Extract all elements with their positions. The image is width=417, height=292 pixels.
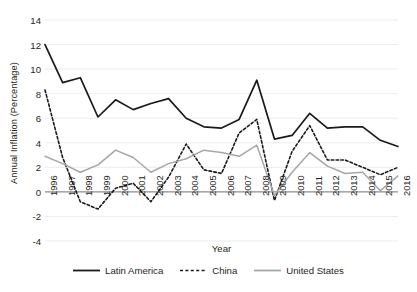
- series-line-latin-america: [45, 45, 398, 147]
- solid-gray-line-swatch: [254, 266, 281, 275]
- x-tick-label: 2004: [190, 175, 200, 196]
- x-tick-label: 2000: [120, 175, 130, 196]
- y-axis-tick-labels: 14121086420-2-4: [0, 20, 41, 241]
- x-tick-label: 2011: [314, 176, 324, 196]
- x-tick-label: 2014: [367, 175, 377, 196]
- x-axis-tick-labels: 1996199719981999200020012002200320042005…: [45, 194, 398, 244]
- x-tick-label: 2003: [173, 175, 183, 196]
- series-line-united-states: [45, 145, 398, 195]
- y-tick-label: -2: [1, 211, 41, 222]
- solid-black-line-swatch: [73, 266, 100, 275]
- chart-figure: Annual Inflation (Percentage) 1412108642…: [0, 0, 417, 292]
- x-tick-label: 2013: [349, 175, 359, 196]
- x-tick-label: 2010: [296, 175, 306, 196]
- chart-legend: Latin AmericaChinaUnited States: [0, 265, 417, 276]
- legend-item[interactable]: United States: [254, 265, 344, 276]
- y-tick-label: 14: [1, 15, 41, 26]
- x-tick-label: 2002: [155, 175, 165, 196]
- y-tick-label: 2: [1, 162, 41, 173]
- legend-item[interactable]: Latin America: [73, 265, 163, 276]
- x-tick-label: 1999: [102, 175, 112, 196]
- y-tick-label: -4: [1, 236, 41, 247]
- y-tick-label: 8: [1, 88, 41, 99]
- y-tick-label: 0: [1, 186, 41, 197]
- x-axis-title: Year: [45, 243, 398, 254]
- series-line-china: [45, 90, 398, 209]
- x-tick-label: 1998: [84, 175, 94, 196]
- y-tick-label: 4: [1, 137, 41, 148]
- x-tick-label: 2007: [243, 175, 253, 196]
- legend-item[interactable]: China: [180, 265, 237, 276]
- x-tick-label: 2008: [261, 175, 271, 196]
- y-tick-label: 10: [1, 64, 41, 75]
- y-tick-label: 12: [1, 39, 41, 50]
- x-tick-label: 2005: [208, 175, 218, 196]
- x-tick-label: 2001: [137, 175, 147, 196]
- legend-label: United States: [286, 265, 344, 276]
- dashed-black-line-swatch: [180, 266, 207, 275]
- legend-label: Latin America: [105, 265, 163, 276]
- x-tick-label: 1996: [49, 175, 59, 196]
- y-tick-label: 6: [1, 113, 41, 124]
- legend-label: China: [212, 265, 237, 276]
- x-tick-label: 2016: [402, 175, 412, 196]
- x-tick-label: 2009: [278, 175, 288, 196]
- x-tick-label: 2012: [331, 175, 341, 196]
- x-tick-label: 2006: [226, 175, 236, 196]
- x-tick-label: 1997: [67, 175, 77, 196]
- x-tick-label: 2015: [384, 175, 394, 196]
